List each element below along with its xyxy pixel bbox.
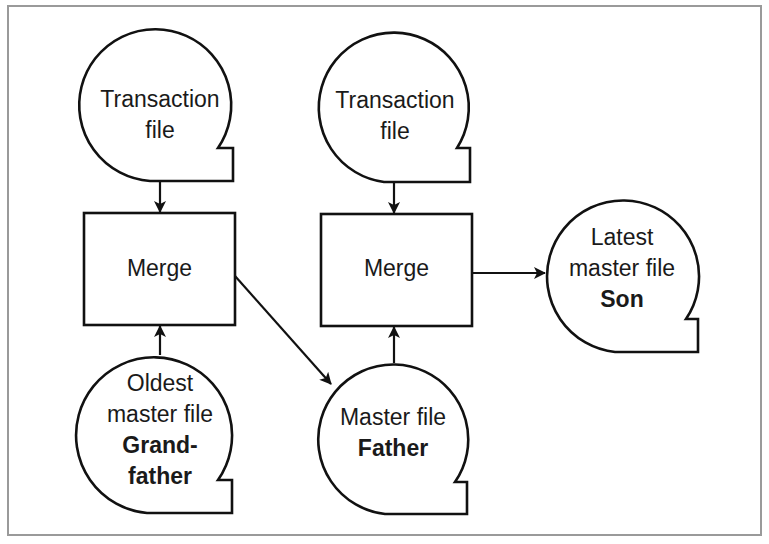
- label-line: file: [315, 116, 475, 147]
- label-line: master file: [80, 399, 240, 430]
- label-line-bold: father: [80, 461, 240, 492]
- label-line: Transaction: [80, 84, 240, 115]
- label-line: Merge: [321, 253, 472, 284]
- label-line-bold: Grand-: [80, 430, 240, 461]
- label-line: Latest: [542, 222, 702, 253]
- label-line: file: [80, 115, 240, 146]
- label-line-bold: Father: [313, 433, 473, 464]
- label-line: Merge: [84, 253, 235, 284]
- label-line-bold: Son: [542, 284, 702, 315]
- father-label: Master file Father: [313, 402, 473, 464]
- label-line: Master file: [313, 402, 473, 433]
- label-line: Oldest: [80, 368, 240, 399]
- merge-1-label: Merge: [84, 253, 235, 284]
- transaction-file-2-label: Transaction file: [315, 85, 475, 147]
- grandfather-label: Oldest master file Grand- father: [80, 368, 240, 492]
- merge-2-label: Merge: [321, 253, 472, 284]
- label-line: master file: [542, 253, 702, 284]
- label-line: Transaction: [315, 85, 475, 116]
- son-label: Latest master file Son: [542, 222, 702, 315]
- transaction-file-1-label: Transaction file: [80, 84, 240, 146]
- arrow-merge-1-to-father: [235, 276, 331, 384]
